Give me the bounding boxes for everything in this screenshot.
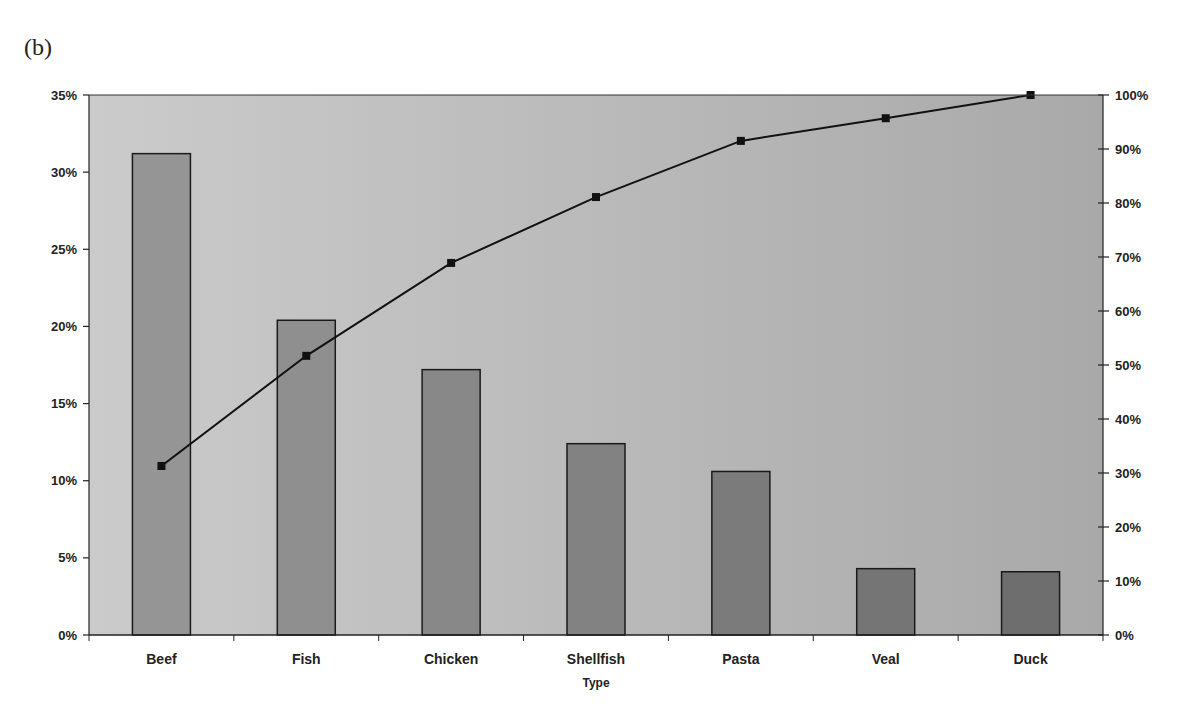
category-label: Pasta [722, 651, 760, 667]
pareto-chart: 0%5%10%15%20%25%30%35% 0%10%20%30%40%50%… [0, 0, 1190, 722]
category-label: Duck [1013, 651, 1047, 667]
right-tick-label: 30% [1115, 466, 1141, 481]
right-tick-label: 90% [1115, 142, 1141, 157]
left-y-axis: 0%5%10%15%20%25%30%35% [51, 88, 89, 643]
left-tick-label: 35% [51, 88, 77, 103]
left-tick-label: 25% [51, 242, 77, 257]
bar-shellfish [567, 444, 625, 635]
left-tick-label: 10% [51, 473, 77, 488]
left-tick-label: 5% [58, 550, 77, 565]
right-tick-label: 10% [1115, 574, 1141, 589]
category-label: Beef [146, 651, 177, 667]
right-tick-label: 0% [1115, 628, 1134, 643]
line-marker-shellfish [592, 193, 600, 201]
bar-pasta [712, 471, 770, 635]
line-marker-veal [882, 114, 890, 122]
bar-fish [277, 320, 335, 635]
line-marker-chicken [447, 259, 455, 267]
bar-duck [1002, 572, 1060, 635]
category-label: Chicken [424, 651, 478, 667]
left-tick-label: 30% [51, 165, 77, 180]
right-tick-label: 60% [1115, 304, 1141, 319]
line-marker-beef [157, 462, 165, 470]
category-label: Veal [872, 651, 900, 667]
right-tick-label: 70% [1115, 250, 1141, 265]
bar-chicken [422, 370, 480, 635]
right-tick-label: 80% [1115, 196, 1141, 211]
bar-veal [857, 569, 915, 635]
left-tick-label: 20% [51, 319, 77, 334]
x-axis-title: Type [582, 676, 609, 690]
right-tick-label: 100% [1115, 88, 1149, 103]
right-tick-label: 40% [1115, 412, 1141, 427]
right-y-axis: 0%10%20%30%40%50%60%70%80%90%100% [1098, 88, 1149, 643]
bar-beef [132, 154, 190, 635]
category-label: Shellfish [567, 651, 625, 667]
right-tick-label: 50% [1115, 358, 1141, 373]
x-axis: BeefFishChickenShellfishPastaVealDuckTyp… [89, 635, 1103, 690]
right-tick-label: 20% [1115, 520, 1141, 535]
category-label: Fish [292, 651, 321, 667]
left-tick-label: 0% [58, 628, 77, 643]
left-tick-label: 15% [51, 396, 77, 411]
line-marker-fish [302, 352, 310, 360]
line-marker-pasta [737, 137, 745, 145]
